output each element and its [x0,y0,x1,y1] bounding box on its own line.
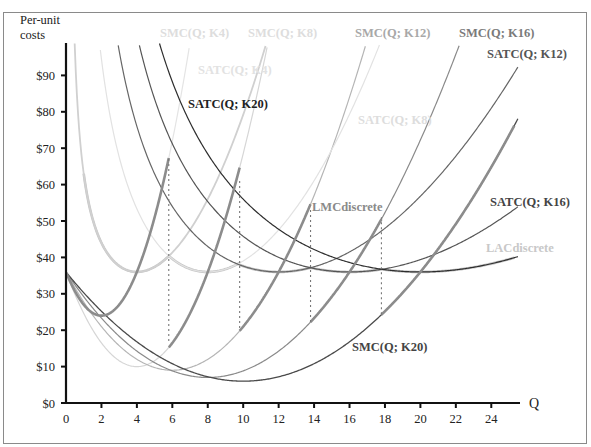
satc-k12-curve [118,45,518,272]
y-tick-label: $20 [36,324,55,338]
satc-k4-curve [75,44,266,272]
x-tick-label: 4 [134,412,141,426]
y-ticks: $0$10$20$30$40$50$60$70$80$90 [36,69,66,411]
x-ticks: 024681012141618202224 [63,403,498,426]
curve-label: SMC(Q; K12) [355,26,430,40]
curve-label: SATC(Q; K12) [487,47,567,61]
x-tick-label: 20 [414,412,427,426]
axes: $0$10$20$30$40$50$60$70$80$90 0246810121… [20,13,539,426]
y-tick-label: $50 [36,215,55,229]
lmc-discrete-segment [381,126,514,315]
y-tick-label: $0 [43,397,56,411]
x-axis-title: Q [529,396,539,411]
cost-curves-chart: $0$10$20$30$40$50$60$70$80$90 0246810121… [0,0,591,447]
lac-discrete-curve [84,174,515,272]
curve-label: SATC(Q; K4) [198,63,272,77]
x-tick-label: 22 [450,412,463,426]
y-tick-label: $70 [36,142,55,156]
x-tick-label: 16 [343,412,356,426]
lmc-discrete-segment [66,158,169,316]
curve-label: SATC(Q; K20) [188,97,268,111]
x-tick-label: 10 [237,412,250,426]
curve-label: LMCdiscrete [312,200,383,214]
smc-k16-curve [67,46,459,378]
curve-label: SMC(Q; K20) [352,340,427,354]
y-axis-title-line2: costs [20,28,45,42]
x-tick-label: 24 [485,412,498,426]
switch-lines-layer [169,159,382,341]
curve-label: SMC(Q; K16) [459,26,534,40]
curve-label: SATC(Q; K16) [490,195,570,209]
satc-k20-curve [160,44,518,272]
curve-labels: SMC(Q; K4)SMC(Q; K8)SMC(Q; K12)SMC(Q; K1… [160,26,570,354]
y-tick-label: $40 [36,251,55,265]
y-tick-label: $10 [36,360,55,374]
x-tick-label: 2 [98,412,104,426]
x-tick-label: 0 [63,412,69,426]
curves-layer [66,44,518,382]
x-tick-label: 6 [169,412,175,426]
y-tick-label: $90 [36,69,55,83]
y-tick-label: $80 [36,105,55,119]
lmc-discrete-segment [169,168,240,348]
curve-label: SMC(Q; K8) [248,26,317,40]
x-tick-label: 14 [308,412,321,426]
y-tick-label: $60 [36,178,55,192]
curve-label: SATC(Q; K8) [358,113,432,127]
curve-label: LACdiscrete [486,241,554,255]
x-tick-label: 18 [379,412,392,426]
curve-label: SMC(Q; K4) [160,26,229,40]
smc-k20-curve [67,119,518,381]
x-tick-label: 12 [272,412,285,426]
y-axis-title-line1: Per-unit [20,13,61,27]
y-tick-label: $30 [36,287,55,301]
smc-k8-curve [67,47,267,366]
x-tick-label: 8 [205,412,211,426]
